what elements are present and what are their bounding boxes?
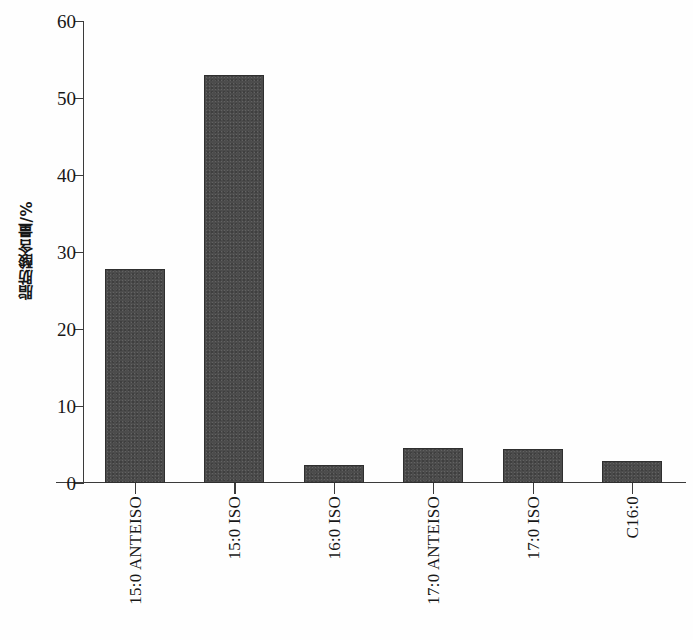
bar bbox=[602, 461, 662, 483]
bar bbox=[503, 449, 563, 483]
bar-chart: 脂肪酸含量/% 0102030405060 15:0 ANTEISO15:0 I… bbox=[0, 0, 693, 640]
y-axis-tick-label: 30 bbox=[57, 243, 76, 262]
x-axis-tick bbox=[632, 483, 633, 494]
x-axis-tick-label-text: 15:0 ANTEISO bbox=[127, 496, 144, 605]
x-axis-tick bbox=[135, 483, 136, 494]
y-axis-tick-label: 20 bbox=[57, 320, 76, 339]
bar bbox=[304, 465, 364, 483]
y-axis-tick-label: 50 bbox=[57, 89, 76, 108]
x-axis-tick-label-text: 17:0 ANTEISO bbox=[425, 496, 442, 605]
x-axis-tick-label-text: 16:0 ISO bbox=[325, 496, 342, 559]
bar bbox=[105, 269, 165, 483]
y-axis-tick-label: 10 bbox=[57, 397, 76, 416]
x-axis-tick-label-text: 15:0 ISO bbox=[226, 496, 243, 559]
x-axis-tick-label-text: 17:0 ISO bbox=[524, 496, 541, 559]
x-axis-tick bbox=[234, 483, 235, 494]
y-axis-tick-label: 60 bbox=[57, 12, 76, 31]
plot-area: 0102030405060 bbox=[83, 21, 680, 483]
x-axis-tick bbox=[533, 483, 534, 494]
bar bbox=[204, 75, 264, 483]
y-axis-tick-label: 0 bbox=[67, 474, 77, 493]
x-axis-tick-label-text: C16:0 bbox=[624, 496, 641, 539]
y-axis-tick-label: 40 bbox=[57, 166, 76, 185]
x-axis-tick bbox=[334, 483, 335, 494]
x-axis-tick bbox=[433, 483, 434, 494]
bar bbox=[403, 448, 463, 483]
y-axis-title: 脂肪酸含量/% bbox=[8, 150, 44, 350]
